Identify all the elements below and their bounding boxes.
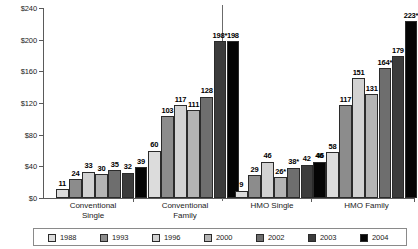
bar-value-label: 30 [98,164,106,173]
group-label-conventional-family: Conventional Family [139,201,231,220]
legend-item[interactable]: 2004 [360,233,388,242]
legend: 1988199319962000200220032004 [33,228,407,246]
bar[interactable] [95,174,108,198]
legend-swatch [256,234,264,242]
bar-value-label: 32 [124,162,132,171]
group-label-line: HMO Single [226,201,318,211]
bar-value-label: 46 [315,151,323,160]
y-tick-label: $80 [25,130,37,139]
legend-label: 2004 [372,233,388,242]
bar-value-label: 117 [175,95,187,104]
group-label-line: Conventional [47,201,139,211]
bar[interactable] [187,110,200,198]
y-tick-label: $0 [29,194,37,203]
legend-label: 1993 [112,233,128,242]
bar[interactable] [122,173,135,198]
group-label-hmo-family: HMO Family [318,201,415,211]
group-label-hmo-single: HMO Single [226,201,318,211]
bar-value-label: 131 [366,84,378,93]
bar-value-label: 38* [288,157,299,166]
bar[interactable] [365,94,378,198]
legend-item[interactable]: 1988 [48,233,76,242]
bar[interactable] [161,116,174,198]
bar-value-label: 9 [239,180,243,189]
x-axis-line [43,198,415,199]
bar-value-label: 33 [85,161,93,170]
legend-item[interactable]: 2000 [204,233,232,242]
bar-value-label: 42 [303,154,311,163]
y-tick-label: $240 [21,4,37,13]
group-label-conventional-single: Conventional Single [47,201,139,220]
legend-label: 1996 [164,233,180,242]
bar-value-label: 11 [59,179,67,188]
bar[interactable] [214,41,227,198]
bar-value-label: 128 [201,86,213,95]
bar-group-conventional-single: 11243330353239 [47,8,139,198]
legend-swatch [100,234,108,242]
bar-value-label: 179 [392,46,404,55]
bar-group-hmo-family: 4658117151131164*179223* [311,8,415,198]
bar[interactable] [313,162,326,198]
legend-swatch [360,234,368,242]
legend-swatch [308,234,316,242]
bar-value-label: 26* [275,167,286,176]
bar[interactable] [235,191,248,198]
bar-value-label: 24 [71,169,79,178]
legend-swatch [48,234,56,242]
bar[interactable] [274,177,287,198]
legend-item[interactable]: 2002 [256,233,284,242]
legend-label: 1988 [60,233,76,242]
bar-group-hmo-single: 9294626*38*4246 [226,8,318,198]
bar-group-conventional-family: 60103117111128198*198 [139,8,231,198]
group-label-line: HMO Family [318,201,415,211]
bar[interactable] [108,170,121,198]
bar[interactable] [261,162,274,198]
bar-value-label: 111 [188,100,199,109]
legend-item[interactable]: 1996 [152,233,180,242]
group-label-line: Single [47,211,139,221]
bar-value-label: 29 [250,165,258,174]
bar[interactable] [174,105,187,198]
bar[interactable] [392,56,405,198]
bar-value-label: 164* [377,58,392,67]
bar-value-label: 103 [161,106,173,115]
legend-item[interactable]: 2003 [308,233,336,242]
bar-value-label: 223* [404,11,418,20]
legend-swatch [204,234,212,242]
bar[interactable] [287,168,300,198]
bar-value-label: 46 [264,151,272,160]
bar[interactable] [56,189,69,198]
bar[interactable] [339,105,352,198]
bar[interactable] [200,97,213,198]
bar-value-label: 117 [340,95,352,104]
group-label-line: Conventional [139,201,231,211]
bar[interactable] [326,152,339,198]
bar[interactable] [148,151,161,199]
bar[interactable] [69,179,82,198]
bar[interactable] [82,172,95,198]
bar[interactable] [405,21,418,198]
legend-label: 2002 [268,233,284,242]
bar[interactable] [352,78,365,198]
bar-value-label: 60 [150,140,158,149]
group-label-line: Family [139,211,231,221]
legend-label: 2000 [216,233,232,242]
bar[interactable] [248,175,261,198]
y-tick-label: $40 [25,162,37,171]
legend-swatch [152,234,160,242]
y-tick-label: $200 [21,35,37,44]
y-tick-label: $160 [21,67,37,76]
bar-value-label: 58 [328,142,336,151]
y-tick-label: $120 [21,99,37,108]
bar-value-label: 151 [353,68,365,77]
legend-label: 2003 [320,233,336,242]
bar-value-label: 198* [212,31,227,40]
legend-item[interactable]: 1993 [100,233,128,242]
bar[interactable] [379,68,392,198]
bar-value-label: 35 [111,160,119,169]
plot-area: $0 $40 $80 $120 $160 $200 $240 [43,8,415,198]
